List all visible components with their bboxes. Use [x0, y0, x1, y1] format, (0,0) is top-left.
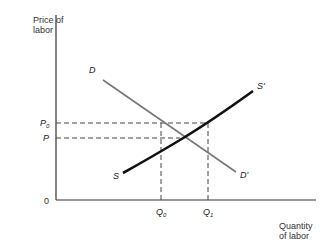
supply-curve	[123, 91, 253, 173]
x-axis-label-line1: Quantity	[279, 221, 313, 231]
labor-market-diagram: Price of labor Quantity of labor 0 P0 P …	[0, 0, 329, 250]
q0-label: Q0	[156, 207, 167, 218]
p-label: P	[43, 133, 49, 143]
p0-label: P0	[40, 118, 50, 129]
s-prime-label: S'	[257, 81, 265, 91]
x-axis-label-line2: of labor	[279, 231, 309, 241]
s-label: S	[113, 171, 119, 181]
y-axis-label-line1: Price of	[33, 15, 64, 25]
demand-curve	[103, 80, 236, 172]
d-prime-label: D'	[240, 170, 248, 180]
y-axis-label-line2: labor	[33, 25, 53, 35]
origin-label: 0	[44, 196, 49, 206]
d-label: D	[89, 65, 96, 75]
q1-label: Q1	[203, 207, 213, 218]
